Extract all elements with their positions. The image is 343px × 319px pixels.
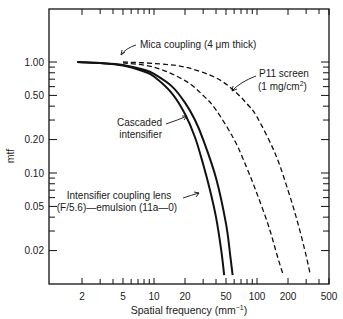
curves [77, 62, 310, 275]
x-tick-label: 100 [249, 291, 266, 302]
x-tick-label: 10 [148, 291, 160, 302]
annotation-p11: P11 screen (1 mg/cm2) [232, 68, 309, 92]
annotation-coupling-lens: Intensifier coupling lens (F/5.6)—emulsi… [57, 190, 199, 213]
mtf-chart: 25102050100200500 1.000.500.200.100.050.… [0, 0, 343, 319]
x-tick-label: 20 [179, 291, 191, 302]
x-axis-tick-labels: 25102050100200500 [79, 291, 338, 302]
x-tick-label: 5 [120, 291, 126, 302]
curve-cascaded-intensifier [77, 62, 232, 275]
x-tick-label: 500 [321, 291, 338, 302]
y-tick-label: 0.50 [25, 90, 45, 101]
x-tick-label: 200 [280, 291, 297, 302]
svg-text:(1 mg/cm2): (1 mg/cm2) [258, 80, 307, 92]
plot-frame [49, 9, 329, 284]
y-tick-label: 0.10 [25, 168, 45, 179]
x-tick-label: 50 [220, 291, 232, 302]
svg-text:Cascaded: Cascaded [117, 117, 162, 128]
svg-text:P11 screen: P11 screen [259, 68, 309, 79]
y-tick-label: 0.05 [25, 201, 45, 212]
annotation-cascaded: Cascaded intensifier [117, 116, 187, 140]
x-tick-label: 2 [79, 291, 85, 302]
y-tick-label: 0.02 [25, 245, 45, 256]
svg-text:(F/5.6)—emulsion (11a—0): (F/5.6)—emulsion (11a—0) [57, 202, 177, 213]
y-tick-label: 1.00 [25, 57, 45, 68]
x-axis-label: Spatial frequency (mm−1) [131, 304, 248, 316]
svg-text:Mica coupling (4 μm thick): Mica coupling (4 μm thick) [140, 39, 256, 50]
y-axis-label: mtf [4, 149, 16, 164]
curve-intensifier-coupling-lens-f-5-6-emulsion-11a-0 [77, 62, 224, 275]
y-tick-label: 0.20 [25, 134, 45, 145]
annotation-mica: Mica coupling (4 μm thick) [121, 39, 256, 55]
y-axis-tick-labels: 1.000.500.200.100.050.02 [25, 57, 45, 257]
curve-p11-screen-1-mg-cm [123, 63, 283, 275]
svg-text:Intensifier coupling lens: Intensifier coupling lens [67, 190, 172, 201]
curve-mica-coupling-4-m-thick [123, 62, 310, 275]
svg-text:intensifier: intensifier [119, 129, 162, 140]
